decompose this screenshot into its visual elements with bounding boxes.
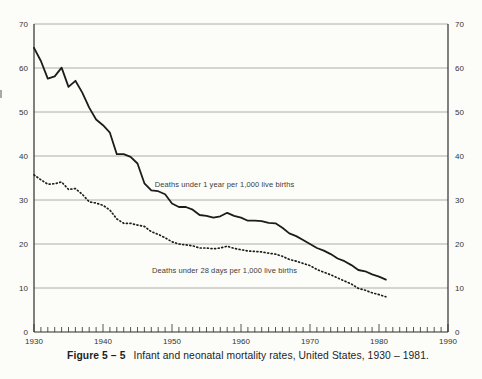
y-axis-label-left-20: 20 bbox=[19, 240, 28, 249]
x-axis-label-1980: 1980 bbox=[370, 337, 388, 346]
y-axis-label-left-60: 60 bbox=[19, 64, 28, 73]
y-axis-label-right-70: 70 bbox=[455, 20, 464, 29]
y-axis-label-right-40: 40 bbox=[455, 152, 464, 161]
y-axis-label-left-40: 40 bbox=[19, 152, 28, 161]
x-axis-label-1930: 1930 bbox=[25, 337, 43, 346]
mortality-line-chart: 1930194019501960197019801990001010202030… bbox=[0, 0, 482, 348]
y-axis-label-right-10: 10 bbox=[455, 284, 464, 293]
neonatal-mortality-line bbox=[34, 175, 386, 297]
y-axis-label-left-50: 50 bbox=[19, 108, 28, 117]
y-axis-label-right-30: 30 bbox=[455, 196, 464, 205]
x-axis-label-1960: 1960 bbox=[232, 337, 250, 346]
figure-caption: Figure 5 – 5Infant and neonatal mortalit… bbox=[0, 350, 482, 361]
y-axis-label-left-10: 10 bbox=[19, 284, 28, 293]
y-axis-label-right-60: 60 bbox=[455, 64, 464, 73]
y-axis-label-left-0: 0 bbox=[24, 328, 29, 337]
x-axis-label-1970: 1970 bbox=[301, 337, 319, 346]
y-axis-label-right-0: 0 bbox=[455, 328, 460, 337]
x-axis-label-1990: 1990 bbox=[439, 337, 457, 346]
x-axis-label-1950: 1950 bbox=[163, 337, 181, 346]
figure-caption-label: Figure 5 – 5 bbox=[67, 350, 125, 361]
series-label-infant: Deaths under 1 year per 1,000 live birth… bbox=[155, 180, 295, 189]
y-axis-label-right-20: 20 bbox=[455, 240, 464, 249]
series-label-neonatal: Deaths under 28 days per 1,000 live birt… bbox=[152, 266, 297, 275]
y-axis-label-left-70: 70 bbox=[19, 20, 28, 29]
figure-caption-text: Infant and neonatal mortality rates, Uni… bbox=[133, 350, 428, 361]
infant-mortality-line bbox=[34, 48, 386, 280]
figure-page: 1930194019501960197019801990001010202030… bbox=[0, 0, 482, 379]
y-axis-label-left-30: 30 bbox=[19, 196, 28, 205]
cropped-y-axis-title-fragment bbox=[0, 90, 2, 98]
y-axis-label-right-50: 50 bbox=[455, 108, 464, 117]
x-axis-label-1940: 1940 bbox=[94, 337, 112, 346]
